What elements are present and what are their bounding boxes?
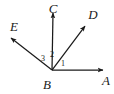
rays-group	[11, 13, 103, 70]
angle-label-2: 2	[50, 51, 54, 59]
angle-label-3: 3	[41, 55, 45, 63]
ray-BC	[52, 13, 53, 70]
angle-label-1: 1	[61, 60, 65, 68]
point-label-C: C	[49, 2, 58, 15]
point-label-D: D	[88, 8, 97, 21]
point-label-A: A	[102, 74, 110, 87]
ray-BD	[52, 26, 85, 70]
ray-BE	[11, 38, 52, 70]
geometry-figure: E C D A B 1 2 3	[0, 0, 114, 94]
point-label-E: E	[10, 20, 18, 33]
point-label-B: B	[43, 78, 51, 91]
